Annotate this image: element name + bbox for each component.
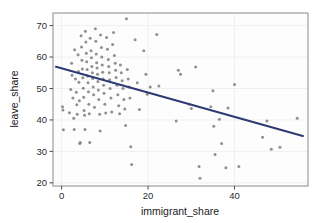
scatter-point [121, 79, 124, 82]
scatter-point [84, 30, 87, 33]
scatter-point [101, 71, 104, 74]
scatter-point [198, 177, 201, 180]
scatter-point [99, 129, 102, 132]
scatter-point [80, 59, 83, 62]
scatter-point [218, 118, 221, 121]
scatter-point [190, 107, 193, 110]
scatter-point [194, 66, 197, 69]
scatter-point [90, 56, 93, 59]
scatter-point [83, 114, 86, 117]
scatter-point [134, 38, 137, 41]
y-axis-title: leave_share [8, 70, 20, 127]
scatter-point [119, 63, 122, 66]
scatter-point [95, 61, 98, 64]
scatter-point [198, 165, 201, 168]
scatter-point [115, 76, 118, 79]
scatter-point [237, 165, 240, 168]
scatter-point [84, 40, 87, 43]
scatter-point [109, 96, 112, 99]
scatter-point [94, 27, 97, 30]
scatter-point [94, 40, 97, 43]
scatter-point [61, 108, 64, 111]
scatter-point [98, 113, 101, 116]
scatter-point [72, 117, 75, 120]
scatter-point [177, 69, 180, 72]
scatter-point [68, 111, 71, 114]
scatter-plot-figure: 203040506070 02040 immigrant_share leave… [0, 0, 316, 223]
scatter-point [108, 71, 111, 74]
scatter-point [79, 141, 82, 144]
scatter-point [179, 73, 182, 76]
scatter-point [95, 52, 98, 55]
scatter-point [117, 104, 120, 107]
y-tick-label: 60 [36, 51, 47, 62]
scatter-point [113, 54, 116, 57]
scatter-point [220, 142, 223, 145]
scatter-point [73, 48, 76, 51]
scatter-point [107, 65, 110, 68]
scatter-point [209, 105, 212, 108]
scatter-point [128, 96, 131, 99]
scatter-point [85, 60, 88, 63]
scatter-point [96, 67, 99, 70]
scatter-point [142, 49, 145, 52]
scatter-point [123, 107, 126, 110]
scatter-point [103, 103, 106, 106]
scatter-point [73, 128, 76, 131]
scatter-point [91, 71, 94, 74]
scatter-point [97, 89, 100, 92]
scatter-point [87, 81, 90, 84]
scatter-point [96, 73, 99, 76]
scatter-point [82, 96, 85, 99]
scatter-point [77, 81, 80, 84]
scatter-point [127, 78, 130, 81]
scatter-point [83, 109, 86, 112]
scatter-point [122, 87, 125, 90]
scatter-point [227, 106, 230, 109]
scatter-point [100, 46, 103, 49]
scatter-point [82, 87, 85, 90]
scatter-point [81, 76, 84, 79]
scatter-point [69, 88, 72, 91]
scatter-point [224, 166, 227, 169]
scatter-point [104, 112, 107, 115]
scatter-point [102, 84, 105, 87]
scatter-point [175, 119, 178, 122]
scatter-point [75, 91, 78, 94]
scatter-point [89, 37, 92, 40]
scatter-point [118, 112, 121, 115]
scatter-point [107, 58, 110, 61]
scatter-point [97, 98, 100, 101]
scatter-point [86, 68, 89, 71]
scatter-point [149, 85, 152, 88]
scatter-point [110, 111, 113, 114]
scatter-point [78, 99, 81, 102]
scatter-point [101, 63, 104, 66]
scatter-point [120, 71, 123, 74]
scatter-point [265, 119, 268, 122]
scatter-point [130, 163, 133, 166]
scatter-point [88, 141, 91, 144]
scatter-point [105, 36, 108, 39]
scatter-point [155, 33, 158, 36]
scatter-point [112, 31, 115, 34]
scatter-point [92, 85, 95, 88]
scatter-point [80, 34, 83, 37]
scatter-point [71, 96, 74, 99]
x-axis-title: immigrant_share [141, 205, 219, 217]
scatter-point [138, 108, 141, 111]
scatter-point [124, 124, 127, 127]
scatter-point [109, 87, 112, 90]
scatter-point [111, 43, 114, 46]
scatter-point [90, 49, 93, 52]
y-tick-label: 50 [36, 83, 47, 94]
chart-canvas: 203040506070 02040 immigrant_share leave… [0, 0, 316, 223]
scatter-point [114, 62, 117, 65]
scatter-point [80, 45, 83, 48]
scatter-point [83, 128, 86, 131]
scatter-point [61, 105, 64, 108]
scatter-point [116, 93, 119, 96]
scatter-point [214, 153, 217, 156]
scatter-point [77, 53, 80, 56]
scatter-point [125, 17, 128, 20]
